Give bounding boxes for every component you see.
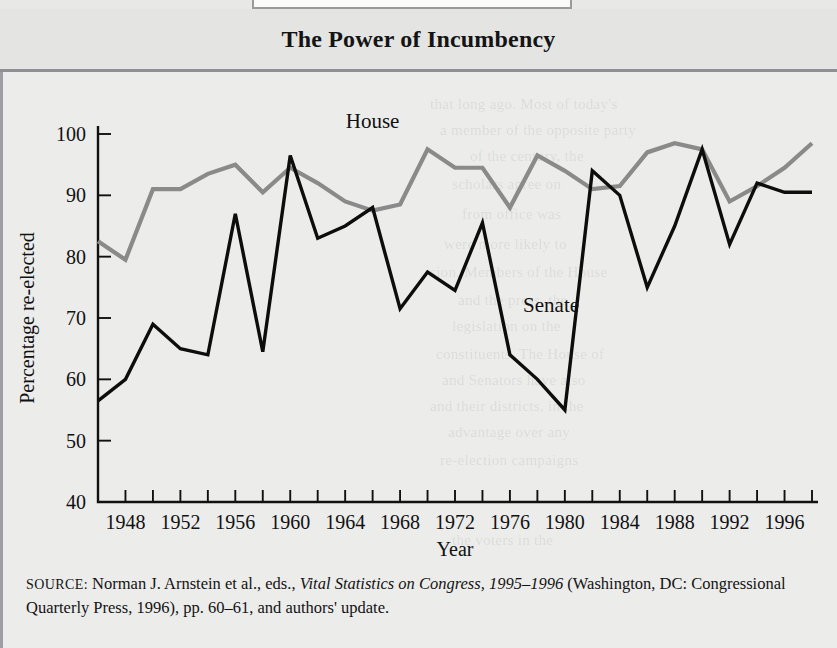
series-label-house: House [346, 109, 400, 133]
x-axis-tick-label: 1996 [765, 511, 805, 533]
source-text-before: Norman J. Arnstein et al., eds., [88, 574, 300, 593]
source-note: SOURCE: Norman J. Arnstein et al., eds.,… [26, 572, 816, 619]
series-label-senate: Senate [523, 293, 579, 317]
x-axis-tick-label: 1956 [215, 511, 255, 533]
x-axis-tick-label: 1952 [160, 511, 200, 533]
chart-plot-area: 4050607080901001948195219561960196419681… [0, 0, 837, 648]
axis-labels-group: 4050607080901001948195219561960196419681… [16, 109, 805, 560]
source-label: SOURCE: [26, 577, 88, 592]
series-lines-group [98, 143, 812, 410]
y-axis-tick-label: 100 [56, 123, 86, 145]
x-axis-tick-label: 1988 [655, 511, 695, 533]
x-axis-title: Year [437, 538, 474, 560]
x-axis-tick-label: 1960 [270, 511, 310, 533]
y-axis-tick-label: 60 [66, 368, 86, 390]
axis-ticks-group [98, 134, 812, 502]
x-axis-tick-label: 1948 [105, 511, 145, 533]
source-citation-title: Vital Statistics on Congress, 1995–1996 [300, 574, 564, 593]
chart-svg: 4050607080901001948195219561960196419681… [0, 0, 837, 648]
y-axis-title: Percentage re-elected [16, 232, 39, 404]
x-axis-tick-label: 1980 [545, 511, 585, 533]
x-axis-tick-label: 1984 [600, 511, 640, 533]
x-axis-tick-label: 1992 [710, 511, 750, 533]
y-axis-tick-label: 70 [66, 307, 86, 329]
figure-container: FIGURE 11.3 The Power of Incumbency that… [0, 0, 837, 648]
x-axis-tick-label: 1968 [380, 511, 420, 533]
y-axis-tick-label: 50 [66, 430, 86, 452]
x-axis-tick-label: 1976 [490, 511, 530, 533]
y-axis-tick-label: 40 [66, 491, 86, 513]
x-axis-tick-label: 1964 [325, 511, 365, 533]
y-axis-tick-label: 90 [66, 184, 86, 206]
y-axis-tick-label: 80 [66, 246, 86, 268]
x-axis-tick-label: 1972 [435, 511, 475, 533]
series-line-senate [98, 149, 812, 410]
